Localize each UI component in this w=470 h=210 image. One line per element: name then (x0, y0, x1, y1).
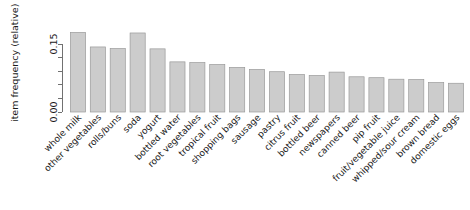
bar (190, 63, 205, 112)
bar (269, 72, 284, 112)
chart-canvas: item frequency (relative) 0.000.15 whole… (0, 0, 470, 210)
y-axis-title-group: item frequency (relative) (9, 4, 20, 122)
bar (429, 83, 444, 112)
y-axis-title: item frequency (relative) (9, 4, 20, 122)
bar (90, 47, 105, 112)
bar (289, 74, 304, 112)
y-axis-tick-label: 0.15 (48, 33, 59, 54)
bar (309, 76, 324, 112)
bar (329, 72, 344, 112)
bar (170, 62, 185, 112)
bar (409, 80, 424, 113)
bar (230, 67, 245, 112)
bars-group (70, 32, 463, 112)
bar (389, 79, 404, 112)
bar (130, 33, 145, 112)
x-axis-labels-group: whole milkother vegetablesrolls/bunssoda… (42, 112, 462, 185)
bar (448, 83, 463, 112)
bar (110, 49, 125, 112)
bar (210, 64, 225, 112)
bar (150, 49, 165, 112)
bar (70, 32, 85, 112)
bar (249, 69, 264, 112)
bar (369, 78, 384, 112)
item-frequency-bar-chart: item frequency (relative) 0.000.15 whole… (0, 0, 470, 210)
y-axis-tick-label: 0.00 (48, 101, 59, 122)
bar (349, 77, 364, 112)
y-axis: 0.000.15 (48, 33, 63, 122)
